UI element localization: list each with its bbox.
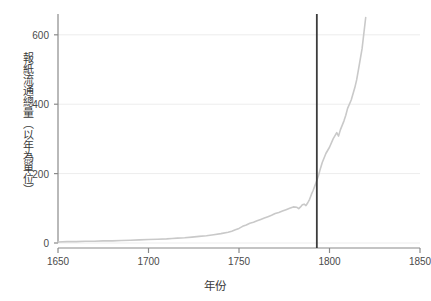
x-tick-label: 1750 [228, 256, 250, 267]
y-tick-label: 200 [0, 168, 49, 179]
tick-marks [54, 35, 420, 253]
y-tick-label: 400 [0, 99, 49, 110]
x-tick-label: 1650 [47, 256, 69, 267]
y-tick-label: 0 [0, 238, 49, 249]
data-line-series [58, 17, 366, 241]
x-axis-title: 年份 [0, 277, 430, 293]
y-tick-label: 600 [0, 29, 49, 40]
gridlines [58, 35, 420, 243]
x-tick-label: 1800 [318, 256, 340, 267]
x-tick-label: 1700 [137, 256, 159, 267]
axis-lines [58, 14, 420, 248]
x-tick-label: 1850 [409, 256, 431, 267]
